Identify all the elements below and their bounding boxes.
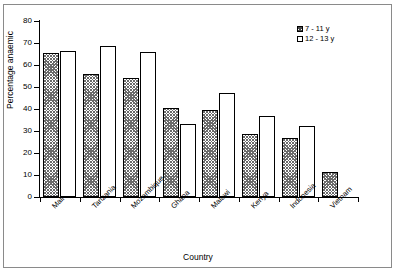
bar-tanzania-series-0 <box>83 74 99 197</box>
y-tick-20 <box>34 153 39 154</box>
y-tick-70 <box>34 43 39 44</box>
legend-entry-0: 7 - 11 y <box>297 24 334 34</box>
x-tick-tanzania <box>80 198 81 202</box>
x-axis-title: Country <box>0 252 396 262</box>
y-tick-50 <box>34 87 39 88</box>
x-tick-mali <box>40 198 41 202</box>
legend-swatch-icon-0 <box>297 26 303 32</box>
bar-mozambique-series-1 <box>140 52 156 197</box>
bar-ghana-series-0 <box>163 108 179 197</box>
legend-label-1: 12 - 13 y <box>305 34 334 44</box>
legend-entry-1: 12 - 13 y <box>297 34 334 44</box>
x-tick-indonesia <box>279 198 280 202</box>
legend-swatch-icon-1 <box>297 36 303 42</box>
y-tick-40 <box>34 109 39 110</box>
plot-area <box>40 21 358 197</box>
y-tick-30 <box>34 131 39 132</box>
y-tick-label-0: 0 <box>0 193 32 201</box>
bar-mali-series-0 <box>43 53 59 197</box>
chart-figure: 01020304050607080 MaliTanzaniaMozambique… <box>0 0 396 276</box>
bar-mozambique-series-0 <box>123 78 139 197</box>
bar-malawi-series-0 <box>202 110 218 197</box>
y-tick-label-10: 10 <box>0 171 32 179</box>
bar-ghana-series-1 <box>180 124 196 197</box>
bar-malawi-series-1 <box>219 93 235 198</box>
bar-indonesia-series-0 <box>282 138 298 197</box>
chart-legend: 7 - 11 y12 - 13 y <box>297 24 334 44</box>
y-tick-0 <box>34 197 39 198</box>
x-tick-end <box>358 198 359 202</box>
y-axis-title: Percentage anaemic <box>6 31 15 109</box>
x-tick-vietnam <box>318 198 319 202</box>
x-tick-mozambique <box>120 198 121 202</box>
x-tick-ghana <box>159 198 160 202</box>
y-tick-60 <box>34 65 39 66</box>
legend-label-0: 7 - 11 y <box>305 24 329 34</box>
y-tick-10 <box>34 175 39 176</box>
bar-mali-series-1 <box>60 51 76 197</box>
bar-kenya-series-1 <box>259 116 275 197</box>
y-tick-label-30: 30 <box>0 127 32 135</box>
y-tick-80 <box>34 21 39 22</box>
x-tick-malawi <box>199 198 200 202</box>
y-tick-label-20: 20 <box>0 149 32 157</box>
bar-kenya-series-0 <box>242 134 258 197</box>
x-tick-kenya <box>239 198 240 202</box>
y-tick-label-80: 80 <box>0 17 32 25</box>
bar-tanzania-series-1 <box>100 46 116 197</box>
bar-vietnam-series-0 <box>322 172 338 197</box>
